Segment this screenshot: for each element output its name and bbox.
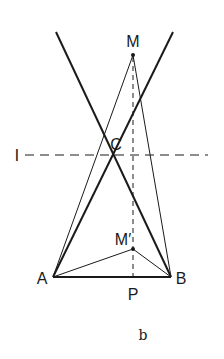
label-b: B <box>176 270 187 287</box>
point-m <box>131 53 135 57</box>
label-l: l <box>15 146 19 165</box>
label-m-prime: M′ <box>115 231 131 248</box>
figure-caption: b <box>139 327 148 343</box>
label-c: C <box>110 136 122 153</box>
point-m-prime <box>131 247 135 251</box>
label-a: A <box>37 270 48 287</box>
segment-mb <box>133 55 171 277</box>
label-p: P <box>128 286 139 303</box>
label-m: M <box>126 33 139 50</box>
geometry-diagram: M C l M′ A B P b <box>0 0 224 359</box>
